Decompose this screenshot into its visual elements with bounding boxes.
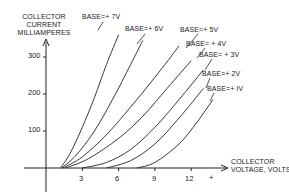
y-tick-label-200: 200 [28,88,41,97]
curve-label-base-1v: BASE=+ IV [207,85,243,93]
x-axis-label: COLLECTOR VOLTAGE, VOLTS [231,158,289,174]
y-axis-label: COLLECTOR CURRENT MILLIAMPERES [10,13,78,37]
x-axis-label-line-2: VOLTAGE, VOLTS [231,166,289,174]
curve-base-6v [62,40,143,168]
curve-base-7v [61,35,119,168]
y-axis-label-line-3: MILLIAMPERES [10,29,78,37]
axis-ticks [43,57,191,171]
curve-label-base-7v: BASE=+ 7V [82,13,120,21]
curve-label-base-3v: BASE= + 3V [199,51,239,59]
y-axis [43,39,49,192]
curve-label-base-5v: BASE=+ 5V [180,26,218,34]
x-tick-label-6: 6 [115,174,119,183]
y-axis-label-line-1: COLLECTOR [10,13,78,21]
curve-label-base-2v: BASE=+ 2V [202,70,240,78]
x-tick-label-9: 9 [152,174,156,183]
x-tick-label-12: 12 [185,174,193,183]
curve-base-4v [65,61,191,168]
x-axis [24,165,228,171]
y-tick-label-100: 100 [28,125,41,134]
curves [61,35,214,168]
y-axis-label-line-2: CURRENT [10,21,78,29]
curve-label-base-4v: BASE= + 4V [186,40,226,48]
curve-label-base-6v: BASE=+ 6V [125,25,163,33]
x-tick-label-3: 3 [79,174,83,183]
x-axis-sign: + [209,173,213,182]
x-axis-label-line-1: COLLECTOR [231,158,289,166]
y-tick-label-300: 300 [28,51,41,60]
